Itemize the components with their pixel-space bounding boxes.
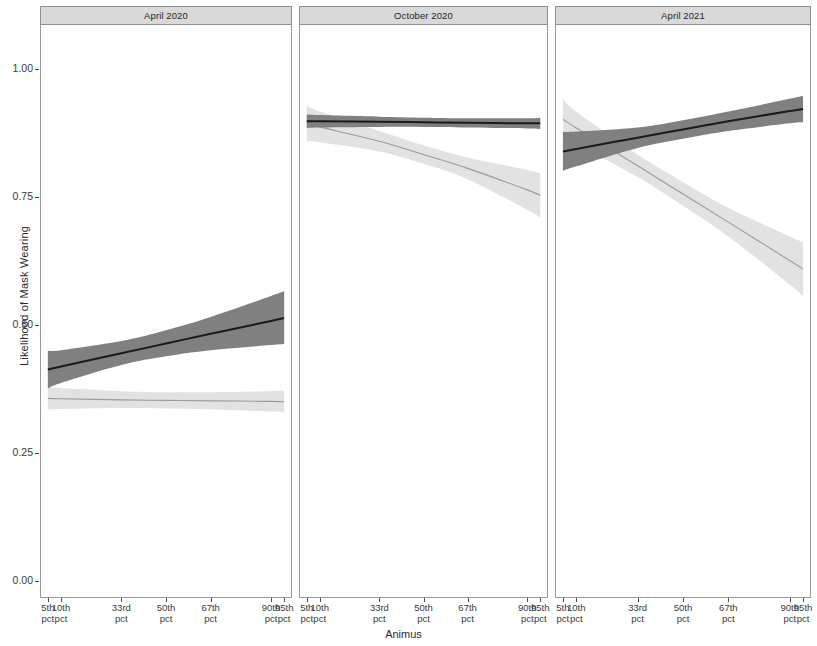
x-tick-label-line2: pct (39, 613, 83, 624)
x-tick-label-line2: pct (99, 613, 143, 624)
y-tick-mark (35, 581, 39, 582)
x-tick-label-line1: 10th (554, 602, 598, 613)
x-tick-label: 33rdpct (616, 602, 660, 624)
x-tick-label-line2: pct (661, 613, 705, 624)
y-tick-label: 0.25 (0, 446, 33, 458)
x-tick-label-line1: 95th (781, 602, 817, 613)
confidence-band-dark (563, 96, 803, 171)
facet-panel: April 2020 (40, 6, 292, 598)
y-tick-label: 0.50 (0, 318, 33, 330)
x-tick-label: 50thpct (144, 602, 188, 624)
x-tick-label-line2: pct (144, 613, 188, 624)
facet-strip: April 2021 (555, 6, 811, 25)
x-tick-label: 67thpct (189, 602, 233, 624)
x-tick-label-line2: pct (402, 613, 446, 624)
confidence-band-dark (48, 291, 284, 388)
x-tick-label-line2: pct (616, 613, 660, 624)
x-tick-label: 67thpct (706, 602, 750, 624)
y-axis-title: Likelihood of Mask Wearing (18, 186, 30, 406)
x-tick-label-line2: pct (706, 613, 750, 624)
facet-strip: October 2020 (299, 6, 548, 25)
y-tick-mark (35, 197, 39, 198)
facet-panel: October 2020 (299, 6, 548, 598)
x-tick-label-line1: 50th (144, 602, 188, 613)
x-tick-label: 33rdpct (99, 602, 143, 624)
facet-plot-area (299, 25, 548, 598)
facet-plot-area (555, 25, 811, 598)
facet-strip: April 2020 (40, 6, 292, 25)
x-tick-label-line1: 50th (661, 602, 705, 613)
x-tick-label-line2: pct (357, 613, 401, 624)
x-tick-label-line1: 33rd (357, 602, 401, 613)
x-tick-label: 10thpct (554, 602, 598, 624)
facet-plot-canvas (556, 25, 810, 597)
x-tick-label-line2: pct (781, 613, 817, 624)
x-tick-label-line1: 10th (39, 602, 83, 613)
facet-strip-label: October 2020 (394, 10, 453, 21)
x-tick-label: 50thpct (661, 602, 705, 624)
facet-panel: April 2021 (555, 6, 811, 598)
y-tick-mark (35, 453, 39, 454)
x-tick-label: 95thpct (781, 602, 817, 624)
y-tick-label: 1.00 (0, 62, 33, 74)
x-tick-label-line1: 67th (189, 602, 233, 613)
x-tick-label-line2: pct (298, 613, 342, 624)
facet-strip-label: April 2021 (661, 10, 705, 21)
y-tick-label: 0.75 (0, 190, 33, 202)
facet-plot-canvas (300, 25, 547, 597)
x-axis-title: Animus (0, 628, 807, 640)
x-tick-label-line1: 33rd (99, 602, 143, 613)
x-tick-label-line2: pct (554, 613, 598, 624)
x-tick-label-line1: 67th (446, 602, 490, 613)
x-tick-label-line2: pct (446, 613, 490, 624)
x-tick-label: 10thpct (298, 602, 342, 624)
facet-strip-label: April 2020 (144, 10, 188, 21)
y-tick-mark (35, 69, 39, 70)
facet-plot-canvas (41, 25, 291, 597)
x-tick-label: 50thpct (402, 602, 446, 624)
x-tick-label-line1: 10th (298, 602, 342, 613)
y-tick-label: 0.00 (0, 574, 33, 586)
facet-plot-area (40, 25, 292, 598)
x-tick-label: 10thpct (39, 602, 83, 624)
x-tick-label-line1: 67th (706, 602, 750, 613)
x-tick-label-line1: 33rd (616, 602, 660, 613)
y-tick-mark (35, 325, 39, 326)
x-tick-label: 67thpct (446, 602, 490, 624)
x-tick-label: 33rdpct (357, 602, 401, 624)
x-tick-label-line2: pct (189, 613, 233, 624)
x-tick-label-line1: 50th (402, 602, 446, 613)
